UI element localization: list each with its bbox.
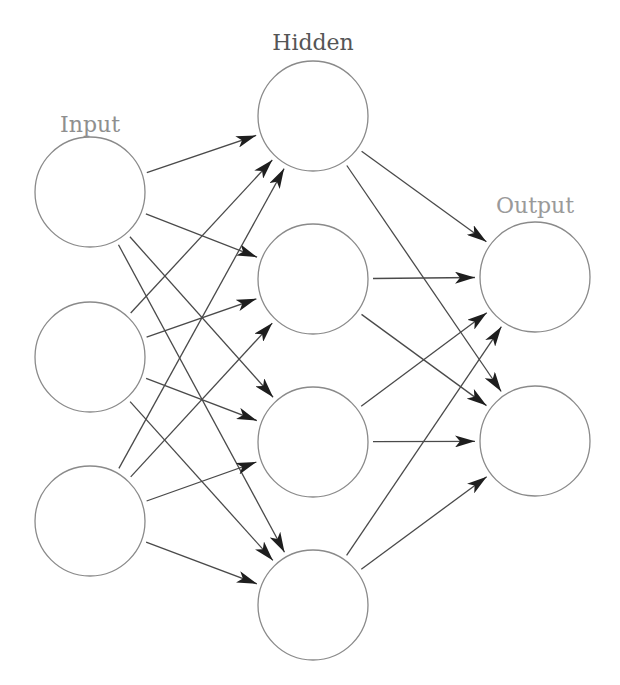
input-node-2 xyxy=(35,302,145,412)
edge-h4-to-o2 xyxy=(361,477,486,570)
edge-i1-to-h3 xyxy=(130,237,273,397)
hidden-node-2 xyxy=(258,224,368,334)
hidden-node-1 xyxy=(258,61,368,171)
layer-output: Output xyxy=(480,193,590,496)
output-node-1 xyxy=(480,222,590,332)
edge-i3-to-h2 xyxy=(131,323,273,477)
edge-h4-to-o1 xyxy=(347,327,502,556)
nodes: Input Hidden Output xyxy=(35,30,590,660)
input-node-3 xyxy=(35,466,145,576)
edge-i2-to-h1 xyxy=(131,160,273,313)
input-layer-label: Input xyxy=(60,112,120,137)
hidden-node-3 xyxy=(258,387,368,497)
edge-i1-to-h2 xyxy=(146,214,257,257)
edge-h2-to-o1 xyxy=(373,278,475,279)
edge-i3-to-h3 xyxy=(147,462,257,501)
edge-h1-to-o1 xyxy=(362,151,487,242)
output-layer-label: Output xyxy=(496,193,574,218)
hidden-layer-label: Hidden xyxy=(272,30,354,55)
output-node-2 xyxy=(480,386,590,496)
hidden-node-4 xyxy=(258,550,368,660)
layer-hidden: Hidden xyxy=(258,30,368,660)
neural-network-diagram: Input Hidden Output xyxy=(0,0,620,685)
layer-input: Input xyxy=(35,112,145,576)
edge-i3-to-h1 xyxy=(119,169,284,469)
edge-i3-to-h4 xyxy=(146,542,257,584)
input-node-1 xyxy=(35,137,145,247)
edges xyxy=(119,135,502,583)
edge-i1-to-h1 xyxy=(147,135,256,172)
